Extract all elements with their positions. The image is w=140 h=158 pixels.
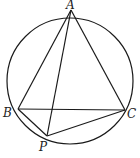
- segment-cp: [47, 110, 125, 136]
- label-p: P: [38, 140, 48, 154]
- label-c: C: [127, 107, 136, 121]
- segment-bc: [18, 109, 125, 110]
- label-a: A: [65, 0, 75, 12]
- geometry-diagram: A B C P: [0, 0, 140, 158]
- label-b: B: [2, 106, 12, 120]
- segment-ap: [47, 10, 71, 136]
- segment-ab: [18, 10, 71, 109]
- circumcircle: [7, 18, 133, 144]
